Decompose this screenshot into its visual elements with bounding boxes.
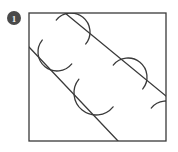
badge-number-label: 1 xyxy=(12,14,17,24)
figure-container: 1 xyxy=(0,0,178,152)
geometry-figure: 1 xyxy=(0,0,178,152)
filled-circle-badge-icon: 1 xyxy=(7,11,21,25)
figure-background xyxy=(0,0,178,152)
